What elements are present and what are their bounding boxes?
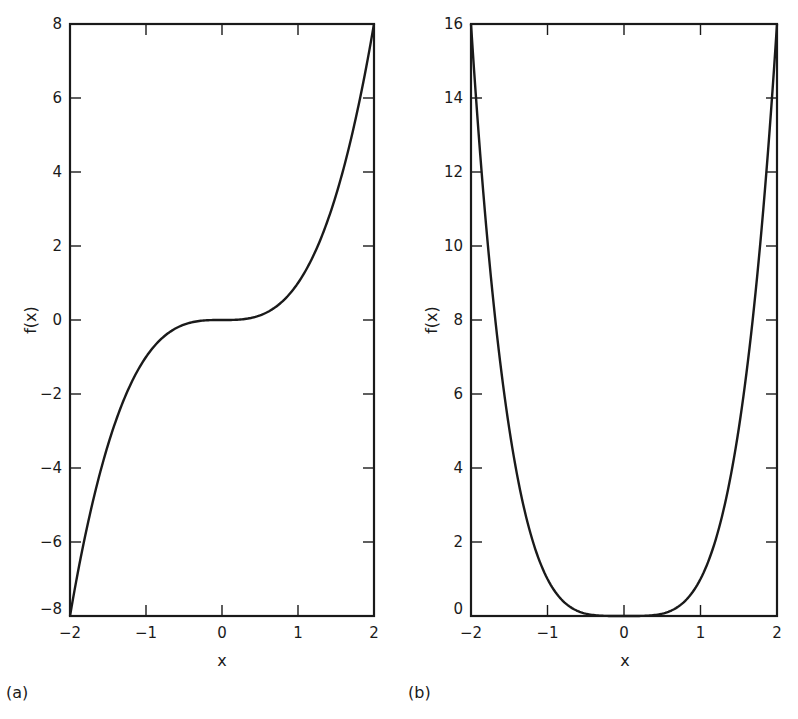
x-tick-label: 2 bbox=[772, 624, 782, 642]
panel-a-ylabel: f(x) bbox=[21, 306, 40, 334]
x-tick-label: 0 bbox=[619, 624, 629, 642]
panel-a-tick-labels: −2−1012−8−6−4−202468 bbox=[40, 15, 379, 642]
x-tick-label: 1 bbox=[696, 624, 706, 642]
y-tick-label: 2 bbox=[453, 533, 463, 551]
figure: −2−1012−8−6−4−202468 x f(x) (a) −2−10120… bbox=[0, 0, 798, 719]
y-tick-label: 16 bbox=[444, 15, 463, 33]
y-tick-label: 14 bbox=[444, 89, 463, 107]
y-tick-label: 8 bbox=[52, 15, 62, 33]
x-tick-label: −1 bbox=[135, 624, 157, 642]
x-tick-label: 1 bbox=[293, 624, 303, 642]
panel-b-ylabel: f(x) bbox=[422, 306, 441, 334]
y-tick-label: 10 bbox=[444, 237, 463, 255]
panel-a-xlabel: x bbox=[217, 651, 226, 670]
panel-a-label: (a) bbox=[6, 683, 28, 702]
y-tick-label: −8 bbox=[40, 600, 62, 618]
y-tick-label: 12 bbox=[444, 163, 463, 181]
panel-b-quartic-plot: −2−10120246810121416 x f(x) (b) bbox=[408, 15, 782, 702]
y-tick-label: 6 bbox=[453, 385, 463, 403]
y-tick-label: 0 bbox=[453, 600, 463, 618]
y-tick-label: 4 bbox=[52, 163, 62, 181]
y-tick-label: −4 bbox=[40, 459, 62, 477]
panel-b-ticks bbox=[471, 24, 777, 616]
panel-a-curve bbox=[70, 24, 374, 616]
y-tick-label: 0 bbox=[52, 311, 62, 329]
y-tick-label: 8 bbox=[453, 311, 463, 329]
y-tick-label: 6 bbox=[52, 89, 62, 107]
x-tick-label: −2 bbox=[59, 624, 81, 642]
panel-b-label: (b) bbox=[408, 683, 431, 702]
x-tick-label: −1 bbox=[536, 624, 558, 642]
y-tick-label: −2 bbox=[40, 385, 62, 403]
y-tick-label: 4 bbox=[453, 459, 463, 477]
panel-b-xlabel: x bbox=[620, 651, 629, 670]
x-tick-label: 2 bbox=[369, 624, 379, 642]
y-tick-label: −6 bbox=[40, 533, 62, 551]
x-tick-label: −2 bbox=[460, 624, 482, 642]
panel-b-tick-labels: −2−10120246810121416 bbox=[444, 15, 782, 642]
y-tick-label: 2 bbox=[52, 237, 62, 255]
panel-a-cubic-plot: −2−1012−8−6−4−202468 x f(x) (a) bbox=[6, 15, 379, 702]
panel-b-curve bbox=[471, 24, 777, 616]
panel-b-frame bbox=[471, 24, 777, 616]
x-tick-label: 0 bbox=[217, 624, 227, 642]
